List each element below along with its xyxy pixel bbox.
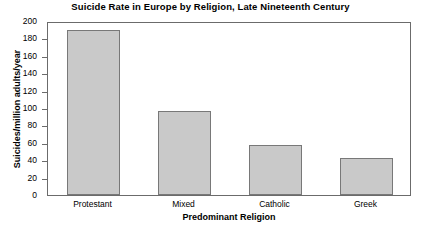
x-tick-label-greek: Greek xyxy=(320,199,411,209)
bar-chart-figure: Suicide Rate in Europe by Religion, Late… xyxy=(0,0,421,229)
y-axis-title: Suicides/million adults/year xyxy=(12,19,22,199)
bar-greek xyxy=(340,158,393,195)
y-tick-label: 0 xyxy=(32,190,37,201)
y-tick-label: 160 xyxy=(23,51,37,62)
y-tick-label: 200 xyxy=(23,16,37,27)
y-tick-label: 140 xyxy=(23,68,37,79)
y-tick-label: 40 xyxy=(28,155,37,166)
y-tick-label: 120 xyxy=(23,86,37,97)
x-tick-label-mixed: Mixed xyxy=(138,199,229,209)
y-tick-label: 100 xyxy=(23,103,37,114)
x-tick-label-protestant: Protestant xyxy=(47,199,138,209)
y-tick-label: 80 xyxy=(28,120,37,131)
bar-catholic xyxy=(249,145,302,195)
y-tick-label: 60 xyxy=(28,138,37,149)
x-axis-title: Predominant Religion xyxy=(47,212,411,222)
x-tick-label-catholic: Catholic xyxy=(229,199,320,209)
bar-protestant xyxy=(67,30,120,195)
y-tick-label: 180 xyxy=(23,33,37,44)
plot-area xyxy=(47,22,411,196)
chart-title: Suicide Rate in Europe by Religion, Late… xyxy=(0,1,421,12)
y-tick-label: 20 xyxy=(28,173,37,184)
bar-mixed xyxy=(158,111,211,195)
